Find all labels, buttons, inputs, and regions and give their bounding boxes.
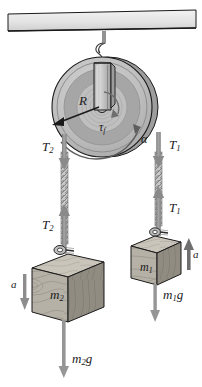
label-weight-m1g: m1g: [163, 288, 183, 301]
diagram-canvas: [0, 0, 202, 387]
m1g-gravity: g: [177, 287, 184, 302]
t2-bottom-subscript: 2: [49, 223, 53, 233]
m1g-subscript: 1: [172, 293, 176, 303]
t1-top-subscript: 1: [176, 143, 180, 153]
right-eye-hook: [150, 228, 168, 236]
m2g-gravity: g: [86, 351, 93, 366]
t2-top-subscript: 2: [49, 145, 53, 155]
label-friction-torque: τf: [99, 121, 106, 133]
right-weight-arrow: [150, 284, 160, 322]
label-tension-t1-top: T1: [169, 138, 181, 151]
m2g-subscript: 2: [81, 357, 85, 367]
m1g-symbol: m: [163, 287, 172, 302]
tau-subscript: f: [103, 126, 105, 135]
m1-symbol: m: [140, 260, 149, 274]
label-acceleration-left: a: [11, 279, 17, 290]
block-m2: [32, 254, 104, 322]
m2-symbol: m: [50, 287, 59, 302]
left-weight-arrow: [59, 320, 69, 378]
m2g-symbol: m: [72, 351, 81, 366]
label-weight-m2g: m2g: [72, 352, 92, 365]
label-tension-t1-bottom: T1: [169, 201, 181, 214]
label-tension-t2-top: T2: [42, 140, 54, 153]
label-mass-m2: m2: [50, 288, 64, 301]
label-acceleration-right: a: [193, 249, 199, 260]
ceiling-beam: [8, 10, 196, 31]
label-mass-m1: m1: [140, 261, 153, 273]
label-radius: R: [79, 94, 87, 107]
label-tension-t2-bottom: T2: [42, 218, 54, 231]
physics-diagram-atwood-machine: R τf α T2 T2 T1 T1 m2 m1 a a m2g m1g: [0, 0, 202, 387]
label-angular-acceleration: α: [141, 133, 147, 145]
m1-subscript: 1: [149, 266, 153, 275]
right-tension-top-arrow: [153, 132, 164, 168]
t1-bottom-subscript: 1: [176, 206, 180, 216]
left-acceleration-arrow: [20, 274, 29, 310]
left-eye-hook: [54, 246, 74, 255]
block-m1: [131, 236, 181, 285]
m2-subscript: 2: [59, 293, 63, 303]
